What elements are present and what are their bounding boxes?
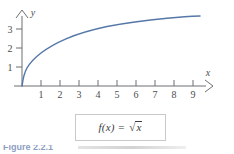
y-tick-labels: 1 2 3	[8, 24, 13, 73]
x-axis-label: x	[205, 67, 211, 78]
formula-box: f(x) = √x	[75, 114, 166, 141]
radical-symbol-group: √x	[128, 121, 142, 134]
caption-rule	[78, 146, 186, 149]
x-tick-label: 5	[115, 89, 120, 100]
x-tick-label: 2	[58, 89, 63, 100]
x-tick-label: 8	[172, 89, 177, 100]
sqrt-curve	[22, 16, 200, 86]
figure-container: 1 2 3 4 5 6 7 8 9 1 2 3 y x f(x) = √x Fi…	[0, 0, 234, 154]
formula-expression: f(x) = √x	[99, 121, 143, 134]
radicand: x	[135, 121, 142, 134]
x-tick-label: 9	[191, 89, 196, 100]
x-tick-label: 6	[134, 89, 139, 100]
x-tick-label: 7	[153, 89, 158, 100]
y-tick-label: 1	[8, 62, 13, 73]
y-tick-marks	[16, 29, 22, 67]
y-tick-label: 2	[8, 43, 13, 54]
figure-caption: Figure 2.2.1	[3, 145, 53, 152]
x-tick-marks	[41, 80, 193, 86]
x-tick-label: 4	[96, 89, 101, 100]
caption-strip: Figure 2.2.1	[0, 145, 234, 154]
y-axis-label: y	[30, 7, 36, 18]
x-tick-labels: 1 2 3 4 5 6 7 8 9	[39, 89, 196, 100]
formula-lhs: f(x) =	[99, 121, 129, 133]
x-axis-arrow-icon	[205, 80, 213, 92]
x-tick-label: 1	[39, 89, 44, 100]
y-tick-label: 3	[8, 24, 13, 35]
x-tick-label: 3	[77, 89, 82, 100]
